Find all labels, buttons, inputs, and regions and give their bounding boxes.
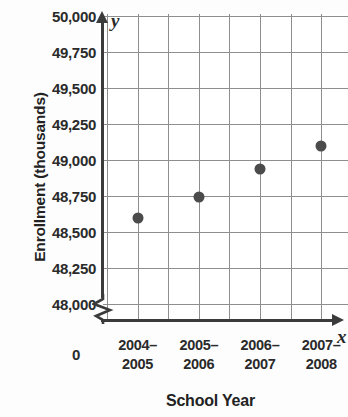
gridline-horizontal (103, 52, 348, 53)
x-axis-tick-label-line: 2008 (290, 355, 348, 374)
x-axis-tick-label-line: 2004– (107, 336, 169, 355)
gridline-horizontal (103, 16, 348, 17)
gridline-horizontal (103, 304, 348, 305)
x-axis-tick-label: 2007–2008 (290, 336, 348, 374)
x-axis-tick-label-line: 2005– (168, 336, 230, 355)
gridline-vertical (107, 14, 108, 320)
gridline-horizontal (103, 196, 348, 197)
y-axis-tick-label: 48,750 (26, 188, 96, 205)
y-axis-tick-label: 49,500 (26, 80, 96, 97)
gridline-horizontal (103, 268, 348, 269)
y-axis-tick-label: 48,250 (26, 260, 96, 277)
y-axis-tick-label: 49,750 (26, 44, 96, 61)
data-point (132, 212, 143, 223)
scatter-plot-figure: Enrollment (thousands) 50,00049,75049,50… (0, 0, 348, 417)
y-axis-tick-label: 49,250 (26, 116, 96, 133)
gridline-horizontal (103, 88, 348, 89)
origin-zero-label: 0 (72, 346, 80, 363)
gridline-vertical (138, 14, 139, 320)
x-axis-tick-label-line: 2007– (290, 336, 348, 355)
x-axis-tick-label-line: 2007 (229, 355, 291, 374)
x-axis-tick-label: 2006–2007 (229, 336, 291, 374)
x-axis-arrow-icon (332, 314, 344, 326)
y-axis-tick-labels: 50,00049,75049,50049,25049,00048,75048,5… (22, 0, 96, 417)
x-axis-title: School Year (103, 392, 318, 410)
y-axis-tick-label: 48,000 (26, 296, 96, 313)
gridline-horizontal (103, 232, 348, 233)
gridline-vertical (199, 14, 200, 320)
y-axis-tick-label: 50,000 (26, 8, 96, 25)
x-axis-tick-label: 2005–2006 (168, 336, 230, 374)
y-axis-variable-letter: y (111, 10, 119, 32)
gridline-horizontal (103, 160, 348, 161)
x-axis-tick-label-line: 2005 (107, 355, 169, 374)
x-axis-tick-labels: 2004–20052005–20062006–20072007–2008 (103, 336, 348, 382)
x-axis-tick-label: 2004–2005 (107, 336, 169, 374)
plot-area (103, 14, 348, 320)
data-point (255, 163, 266, 174)
y-axis-tick-label: 49,000 (26, 152, 96, 169)
x-axis-line (101, 319, 334, 322)
gridline-horizontal (103, 124, 348, 125)
gridline-vertical (291, 14, 292, 320)
gridline-vertical (168, 14, 169, 320)
y-axis-line (101, 22, 104, 298)
x-axis-tick-label-line: 2006– (229, 336, 291, 355)
y-axis-tick-label: 48,500 (26, 224, 96, 241)
axis-break-icon (92, 294, 114, 324)
data-point (316, 140, 327, 151)
data-point (193, 192, 204, 203)
gridline-vertical (321, 14, 322, 320)
y-axis-arrow-icon (96, 11, 108, 23)
x-axis-tick-label-line: 2006 (168, 355, 230, 374)
gridline-vertical (229, 14, 230, 320)
